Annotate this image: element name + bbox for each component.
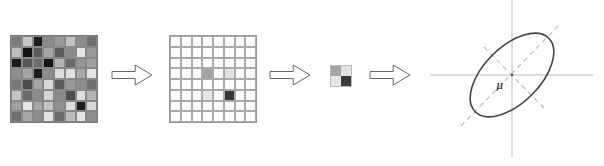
mean-point	[511, 74, 513, 76]
principal-axis-2	[484, 47, 544, 108]
diagram-canvas: μ	[0, 0, 604, 166]
mean-label: μ	[496, 79, 503, 92]
gaussian-ellipse-plot	[0, 0, 604, 166]
